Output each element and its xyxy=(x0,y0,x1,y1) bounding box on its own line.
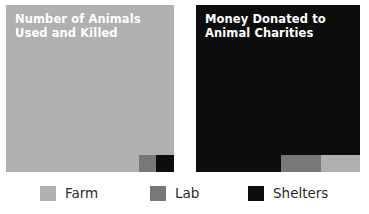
area-segment-farm xyxy=(321,155,360,172)
legend-swatch-lab xyxy=(150,186,166,201)
area-segment-lab xyxy=(281,155,321,172)
legend-label-shelters: Shelters xyxy=(273,186,328,201)
area-segment-shelters xyxy=(156,155,174,172)
legend-label-farm: Farm xyxy=(65,186,98,201)
legend-swatch-shelters xyxy=(248,186,264,201)
chart-panel-animals-used-and-killed: Number of Animals Used and Killed xyxy=(6,5,174,172)
legend-item-lab: Lab xyxy=(150,180,199,206)
legend-item-farm: Farm xyxy=(40,180,98,206)
legend-swatch-farm xyxy=(40,186,56,201)
chart-panel-money-donated-to-animal-charities: Money Donated to Animal Charities xyxy=(196,5,360,172)
legend-label-lab: Lab xyxy=(175,186,199,201)
chart-title-money-donated-to-animal-charities: Money Donated to Animal Charities xyxy=(205,13,355,40)
chart-legend: Farm Lab Shelters xyxy=(0,180,369,208)
area-segment-lab xyxy=(139,155,156,172)
chart-title-animals-used-and-killed: Number of Animals Used and Killed xyxy=(15,13,165,40)
legend-item-shelters: Shelters xyxy=(248,180,328,206)
figure-canvas: Number of Animals Used and Killed Money … xyxy=(0,0,369,214)
